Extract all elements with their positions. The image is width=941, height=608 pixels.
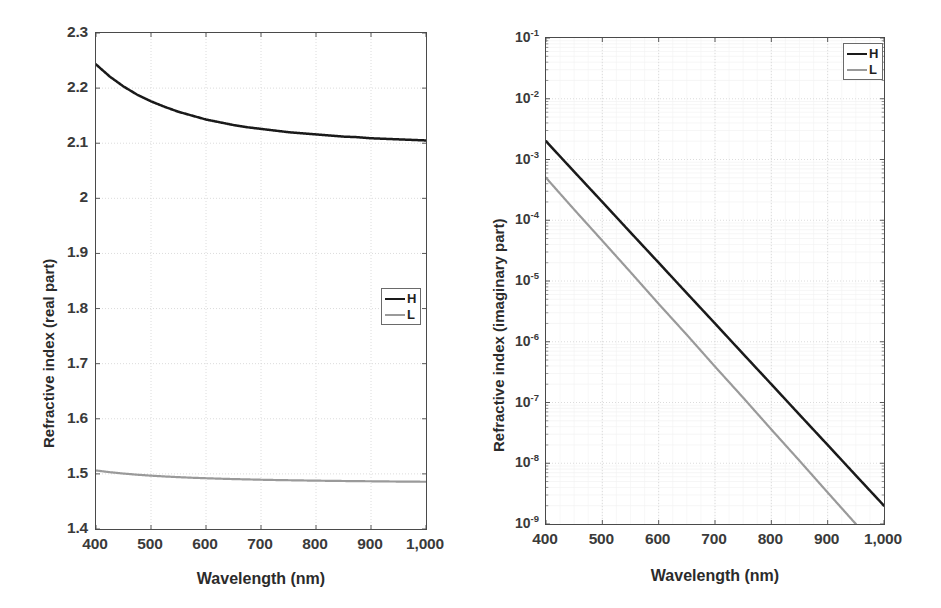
x-tick-label: 900 — [357, 535, 382, 553]
legend-entry-l: L — [385, 308, 416, 321]
y-tick-label: 2.2 — [67, 78, 88, 96]
plot-area-real-part — [95, 32, 427, 530]
y-tick-label: 10-8 — [515, 454, 539, 470]
refractive-index-figure: 1.41.51.61.71.81.922.12.22.3 40050060070… — [0, 0, 941, 608]
legend-line-h-icon — [847, 53, 867, 55]
x-tick-label: 600 — [645, 530, 670, 548]
legend-entry-h: H — [385, 292, 416, 305]
x-axis-title-imaginary-part: Wavelength (nm) — [651, 567, 779, 585]
plot-area-imaginary-part — [545, 37, 885, 525]
panel-imaginary-part: 10-910-810-710-610-510-410-310-210-1 400… — [470, 0, 941, 608]
curve-h — [546, 141, 884, 506]
y-tick-label: 2.1 — [67, 133, 88, 151]
x-axis-title-real-part: Wavelength (nm) — [197, 570, 325, 588]
y-tick-label: 1.6 — [67, 409, 88, 427]
x-tick-label: 500 — [137, 535, 162, 553]
legend-entry-h: H — [847, 47, 878, 60]
y-tick-label: 10-3 — [515, 151, 539, 167]
x-tick-label: 1,000 — [864, 530, 902, 548]
legend-real-part: H L — [381, 288, 421, 325]
x-tick-label: 800 — [758, 530, 783, 548]
legend-entry-l: L — [847, 63, 878, 76]
curve-l — [546, 178, 856, 524]
y-tick-label: 2.3 — [67, 23, 88, 41]
curve-l — [96, 470, 426, 481]
y-tick-label: 2 — [80, 188, 88, 206]
y-tick-label: 10-7 — [515, 394, 539, 410]
x-tick-label: 800 — [302, 535, 327, 553]
curve-h — [96, 64, 426, 140]
y-tick-label: 10-2 — [515, 90, 539, 106]
x-tick-label: 900 — [814, 530, 839, 548]
x-tick-label: 400 — [82, 535, 107, 553]
y-tick-label: 1.7 — [67, 354, 88, 372]
legend-line-l-icon — [385, 314, 405, 316]
legend-label-l: L — [407, 308, 415, 321]
y-tick-label: 10-9 — [515, 515, 539, 531]
curves-imaginary-part — [546, 38, 884, 524]
x-tick-label: 700 — [701, 530, 726, 548]
y-tick-label: 10-6 — [515, 333, 539, 349]
y-tick-label: 1.9 — [67, 243, 88, 261]
x-tick-label: 600 — [192, 535, 217, 553]
y-axis-title-imaginary-part: Refractive index (imaginary part) — [490, 219, 507, 452]
y-tick-label: 1.5 — [67, 464, 88, 482]
legend-label-l: L — [869, 63, 877, 76]
x-tick-label: 700 — [247, 535, 272, 553]
y-tick-label: 1.8 — [67, 299, 88, 317]
y-axis-title-real-part: Refractive index (real part) — [40, 259, 57, 448]
y-tick-label: 10-4 — [515, 211, 539, 227]
legend-line-l-icon — [847, 69, 867, 71]
panel-real-part: 1.41.51.61.71.81.922.12.22.3 40050060070… — [0, 0, 470, 608]
x-tick-label: 500 — [589, 530, 614, 548]
x-tick-label: 400 — [532, 530, 557, 548]
y-tick-label: 10-5 — [515, 272, 539, 288]
curves-real-part — [96, 33, 426, 529]
legend-label-h: H — [869, 47, 878, 60]
y-tick-label: 10-1 — [515, 29, 539, 45]
x-tick-label: 1,000 — [406, 535, 444, 553]
legend-label-h: H — [407, 292, 416, 305]
legend-line-h-icon — [385, 298, 405, 300]
legend-imaginary-part: H L — [843, 43, 883, 80]
